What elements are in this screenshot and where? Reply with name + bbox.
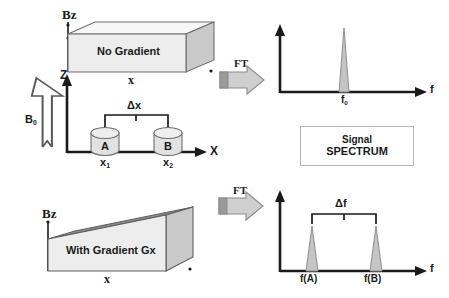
peak-label-fb: f(B) [364,274,381,284]
spectrum-peak-fb [370,226,382,271]
mri-gradient-diagram: Bz No Gradient x B0 Z X Δx A B x1 x2 [0,0,449,298]
peak-label-fa: f(A) [300,274,317,284]
delta-f-label: Δf [335,198,347,209]
frequency-axis-label-bottom: f [430,263,434,274]
spectrum-peak-fa [306,226,318,271]
two-peak-spectrum-graphic [0,0,449,298]
spectrum-bottom-x-arrowhead [415,266,427,276]
spectrum-bottom-y-arrowhead [275,190,285,202]
